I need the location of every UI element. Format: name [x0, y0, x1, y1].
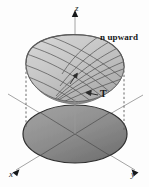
figure-container: z x y n upward T — [0, 0, 149, 187]
normal-upward-label: n upward — [100, 33, 138, 42]
figure-graphic — [0, 0, 149, 187]
z-axis-label: z — [75, 4, 79, 13]
x-axis-arrowhead — [13, 169, 20, 176]
x-axis-label: x — [9, 170, 13, 179]
surface-label-T: T — [100, 89, 107, 99]
y-axis-label: y — [131, 170, 135, 179]
